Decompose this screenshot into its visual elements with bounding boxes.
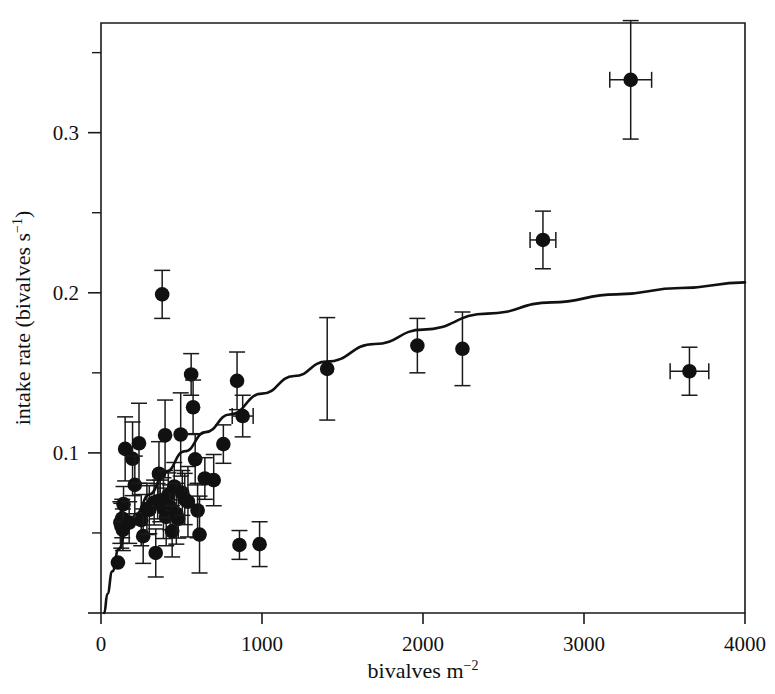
scatter-marker [165, 524, 180, 539]
data-point [409, 318, 425, 372]
data-point [206, 454, 222, 505]
x-tick-label: 2000 [402, 632, 444, 656]
scatter-marker [206, 473, 221, 488]
data-point [319, 318, 335, 420]
scatter-marker [216, 437, 231, 452]
y-axis-ticks [88, 53, 101, 613]
x-tick-label: 4000 [724, 632, 766, 656]
x-axis-title: bivalves m−2 [368, 658, 479, 683]
x-axis-ticks [101, 613, 745, 624]
fit-curve-layer [104, 282, 745, 613]
data-point [154, 270, 170, 318]
data-point [185, 380, 201, 434]
scatter-plot: 01000200030004000 0.10.20.3 bivalves m−2… [0, 0, 775, 694]
data-point [610, 21, 652, 139]
scatter-marker [536, 233, 551, 248]
scatter-marker [410, 338, 425, 353]
data-point [183, 354, 199, 396]
scatter-marker [192, 527, 207, 542]
scatter-marker [252, 537, 267, 552]
scatter-marker [158, 428, 173, 443]
fitted-response-curve [104, 282, 745, 613]
scatter-marker [186, 400, 201, 415]
data-point [111, 555, 126, 570]
data-point [530, 211, 556, 269]
scatter-marker [128, 478, 143, 493]
y-axis-title: intake rate (bivalves s−1) [10, 211, 35, 426]
scatter-marker [455, 342, 470, 357]
x-tick-labels: 01000200030004000 [96, 632, 766, 656]
x-tick-label: 0 [96, 632, 107, 656]
data-point [117, 417, 133, 481]
scatter-marker [232, 538, 247, 553]
y-tick-label: 0.2 [53, 281, 79, 305]
y-tick-labels: 0.10.20.3 [53, 121, 79, 465]
data-point [670, 347, 709, 395]
scatter-marker [682, 364, 697, 379]
x-tick-label: 3000 [563, 632, 605, 656]
y-tick-label: 0.3 [53, 121, 79, 145]
data-points-layer [111, 21, 709, 577]
data-point [231, 531, 247, 560]
x-tick-label: 1000 [241, 632, 283, 656]
scatter-marker [188, 452, 203, 467]
scatter-marker [230, 374, 245, 389]
scatter-marker [132, 436, 147, 451]
data-point [215, 425, 231, 463]
scatter-marker [320, 362, 335, 377]
scatter-marker [155, 287, 170, 302]
scatter-marker [111, 555, 126, 570]
scatter-marker [136, 529, 151, 544]
data-point [252, 522, 268, 567]
data-point [454, 312, 470, 386]
scatter-marker [125, 452, 140, 467]
scatter-marker [623, 73, 638, 88]
data-point [131, 403, 147, 483]
data-point [232, 395, 253, 437]
y-tick-label: 0.1 [53, 441, 79, 465]
figure-container: 01000200030004000 0.10.20.3 bivalves m−2… [0, 0, 775, 694]
scatter-marker [148, 546, 163, 561]
scatter-marker [190, 503, 205, 518]
